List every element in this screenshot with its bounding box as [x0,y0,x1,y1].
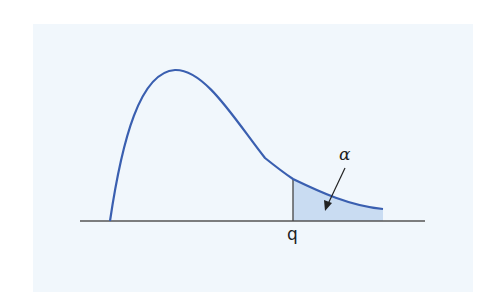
alpha-label: α [339,144,351,164]
density-plot: α q [0,0,498,292]
q-label: q [287,224,298,244]
